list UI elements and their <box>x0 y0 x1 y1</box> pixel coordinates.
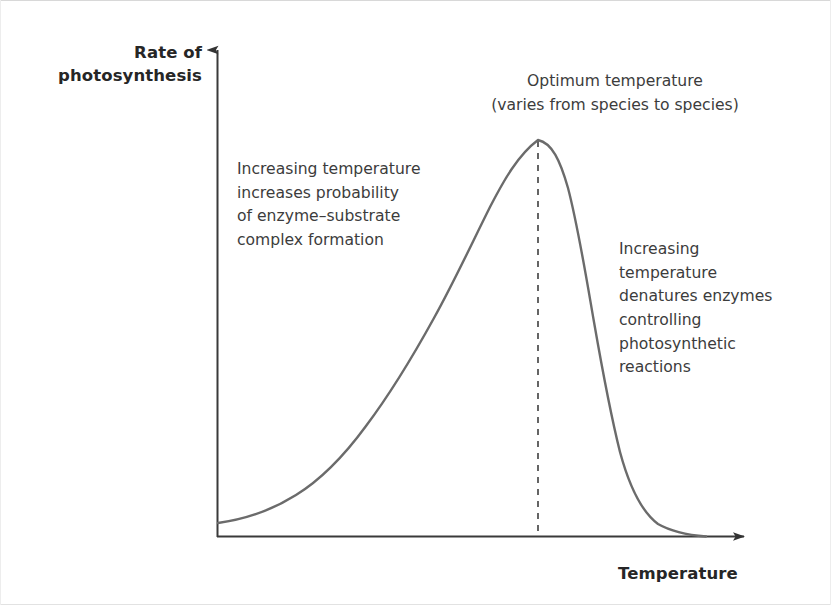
figure-canvas: Rate of photosynthesis Temperature Optim… <box>0 0 831 605</box>
x-axis-title: Temperature <box>618 563 738 586</box>
annotation-optimum-temperature: Optimum temperature (varies from species… <box>455 70 775 117</box>
y-axis-title: Rate of photosynthesis <box>14 42 202 88</box>
annotation-increasing-temperature-probability: Increasing temperature increases probabi… <box>237 158 497 253</box>
annotation-denaturation: Increasing temperature denatures enzymes… <box>619 238 819 380</box>
